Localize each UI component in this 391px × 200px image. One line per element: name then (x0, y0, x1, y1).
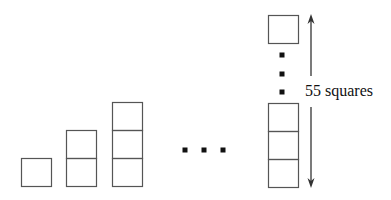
square (67, 131, 97, 159)
vertical-ellipsis (280, 53, 285, 95)
square (269, 132, 299, 160)
square (269, 16, 299, 44)
ellipsis-dot (280, 53, 285, 58)
double-arrow-icon (308, 14, 315, 188)
ellipsis-dot (183, 148, 188, 153)
square (269, 104, 299, 132)
stack-3 (113, 103, 143, 187)
ellipsis-dot (280, 90, 285, 95)
ellipsis-dot (202, 148, 207, 153)
square (113, 159, 143, 187)
horizontal-ellipsis (183, 148, 226, 153)
square (269, 160, 299, 188)
count-label: 55 squares (304, 83, 374, 99)
square (113, 131, 143, 159)
square (22, 159, 52, 187)
square (67, 159, 97, 187)
final-stack-55 (269, 16, 299, 188)
stack-2 (67, 131, 97, 187)
ellipsis-dot (221, 148, 226, 153)
ellipsis-dot (280, 72, 285, 77)
diagram-canvas (0, 0, 391, 200)
square (113, 103, 143, 131)
square-stacks (22, 103, 143, 187)
stack-1 (22, 159, 52, 187)
